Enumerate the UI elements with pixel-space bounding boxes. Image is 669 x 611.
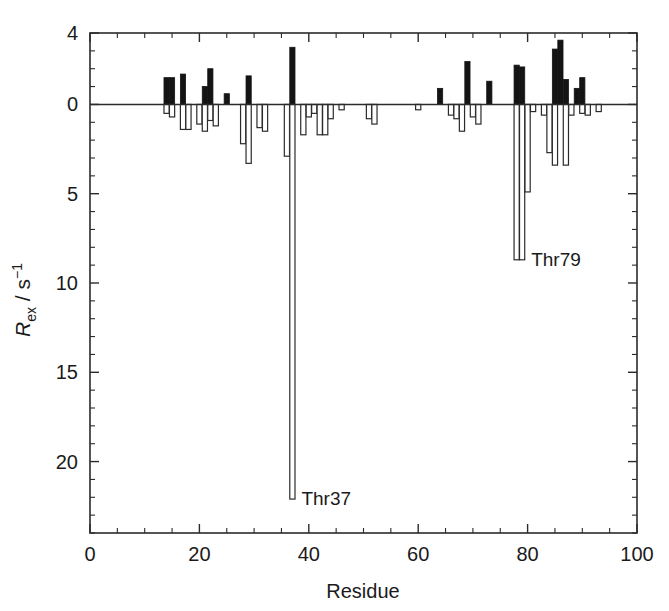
y-tick-label-5: 5 — [67, 183, 78, 205]
bar-residue-78-filled — [514, 65, 519, 104]
x-tick-label-80: 80 — [516, 543, 538, 565]
annotation-labels: Thr37Thr79 — [301, 249, 580, 509]
x-axis-title: Residue — [326, 580, 399, 602]
bar-residue-87-filled — [563, 79, 568, 104]
bar-residue-78-open — [514, 104, 519, 259]
x-tick-label-20: 20 — [188, 543, 210, 565]
bar-residue-22-open — [208, 104, 213, 120]
y-tick-label-0: 0 — [67, 93, 78, 115]
bar-residue-37-open — [290, 104, 295, 499]
bar-residue-64-filled — [437, 88, 442, 104]
bar-residue-79-open — [520, 104, 525, 259]
bar-residue-40-open — [306, 104, 311, 117]
bar-residue-86-filled — [558, 40, 563, 104]
y-tick-label-4: 4 — [67, 22, 78, 44]
bar-residue-90-open — [580, 104, 585, 113]
annotation-thr37: Thr37 — [301, 488, 351, 509]
bar-residue-32-open — [262, 104, 267, 131]
y-tick-labels: 405101520 — [56, 22, 78, 473]
bar-residue-15-filled — [169, 78, 174, 105]
bar-residue-67-open — [454, 104, 459, 118]
bar-residue-79-filled — [520, 67, 525, 105]
bar-residue-42-open — [317, 104, 322, 134]
y-axis-title-ex: ex — [23, 307, 39, 322]
bar-residue-89-filled — [574, 88, 579, 104]
bar-residue-14-filled — [164, 78, 169, 105]
y-tick-label-20: 20 — [56, 451, 78, 473]
bar-residue-14-open — [164, 104, 169, 113]
y-axis-title-text: Rex / s−1 — [9, 263, 39, 337]
bar-residue-66-open — [448, 104, 453, 115]
x-tick-labels: 020406080100 — [84, 543, 653, 565]
bar-residue-17-filled — [180, 74, 185, 104]
bar-residue-28-open — [241, 104, 246, 143]
bar-residue-71-open — [476, 104, 481, 124]
bar-residue-36-open — [284, 104, 289, 156]
x-tick-label-100: 100 — [620, 543, 653, 565]
bar-residue-31-open — [257, 104, 262, 127]
bar-residue-85-filled — [552, 49, 557, 104]
y-axis-title-exponent: −1 — [9, 263, 25, 279]
y-axis-title-R: R — [11, 322, 34, 337]
y-axis-title-persec: / s — [11, 279, 34, 307]
bar-residue-51-open — [366, 104, 371, 118]
bar-residue-23-open — [213, 104, 218, 125]
bar-residue-52-open — [372, 104, 377, 124]
bar-residue-39-open — [301, 104, 306, 134]
y-axis-title: Rex / s−1 — [9, 263, 39, 337]
bar-residue-84-open — [547, 104, 552, 152]
bar-residue-87-open — [563, 104, 568, 165]
bar-residue-17-open — [180, 104, 185, 129]
bar-residue-88-open — [569, 104, 574, 115]
bar-residue-44-open — [328, 104, 333, 118]
x-tick-label-0: 0 — [84, 543, 95, 565]
bar-residue-22-filled — [208, 69, 213, 105]
bar-residue-73-filled — [487, 81, 492, 104]
bar-residue-18-open — [186, 104, 191, 129]
rex-vs-residue-chart: 405101520 020406080100 Thr37Thr79 Residu… — [0, 0, 669, 611]
annotation-thr79: Thr79 — [531, 249, 581, 270]
bar-residue-21-open — [202, 104, 207, 131]
bar-residue-29-open — [246, 104, 251, 163]
bar-residue-90-filled — [580, 78, 585, 105]
bar-residue-93-open — [596, 104, 601, 111]
figure-container: 405101520 020406080100 Thr37Thr79 Residu… — [0, 0, 669, 611]
bar-residue-15-open — [169, 104, 174, 117]
bar-residue-21-filled — [202, 87, 207, 105]
bar-residue-68-open — [459, 104, 464, 131]
bar-residue-70-open — [470, 104, 475, 117]
bar-residue-25-filled — [224, 94, 229, 105]
bar-residue-85-open — [552, 104, 557, 165]
bar-residue-81-open — [530, 104, 535, 111]
bar-residue-91-open — [585, 104, 590, 115]
y-tick-label-10: 10 — [56, 272, 78, 294]
bar-residue-20-open — [197, 104, 202, 124]
x-tick-label-60: 60 — [407, 543, 429, 565]
bar-residue-41-open — [312, 104, 317, 113]
bar-residue-46-open — [339, 104, 344, 109]
bar-residue-69-filled — [465, 62, 470, 105]
bar-residue-29-filled — [246, 76, 251, 105]
bar-residue-37-filled — [290, 47, 295, 104]
x-tick-label-40: 40 — [298, 543, 320, 565]
bar-residue-43-open — [323, 104, 328, 134]
bar-residue-60-open — [416, 104, 421, 109]
y-tick-label-15: 15 — [56, 361, 78, 383]
bar-residue-83-open — [541, 104, 546, 115]
bar-residue-80-open — [525, 104, 530, 191]
